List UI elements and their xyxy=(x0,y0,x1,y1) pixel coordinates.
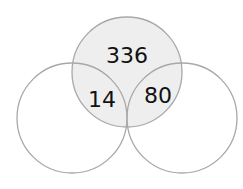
label-top-right: 80 xyxy=(144,83,172,108)
venn-diagram: 336 14 80 xyxy=(0,0,243,189)
label-top-only: 336 xyxy=(106,43,148,68)
label-top-left: 14 xyxy=(88,87,116,112)
